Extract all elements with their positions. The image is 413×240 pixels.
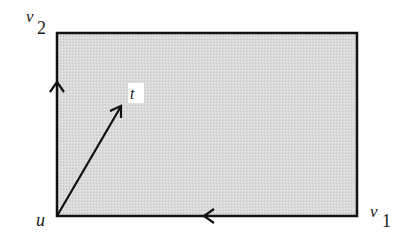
vertex-v1-subscript: 1 [382,211,391,231]
vertex-v2-subscript: 2 [37,18,46,38]
vertex-v1-label: v [370,202,378,221]
point-t-label: t [130,85,135,102]
vertex-u-label: u [36,210,45,230]
vertex-v2-label: v [26,7,34,26]
graph-diagram: v 2 t u v 1 [0,0,413,240]
shaded-region [57,33,357,216]
